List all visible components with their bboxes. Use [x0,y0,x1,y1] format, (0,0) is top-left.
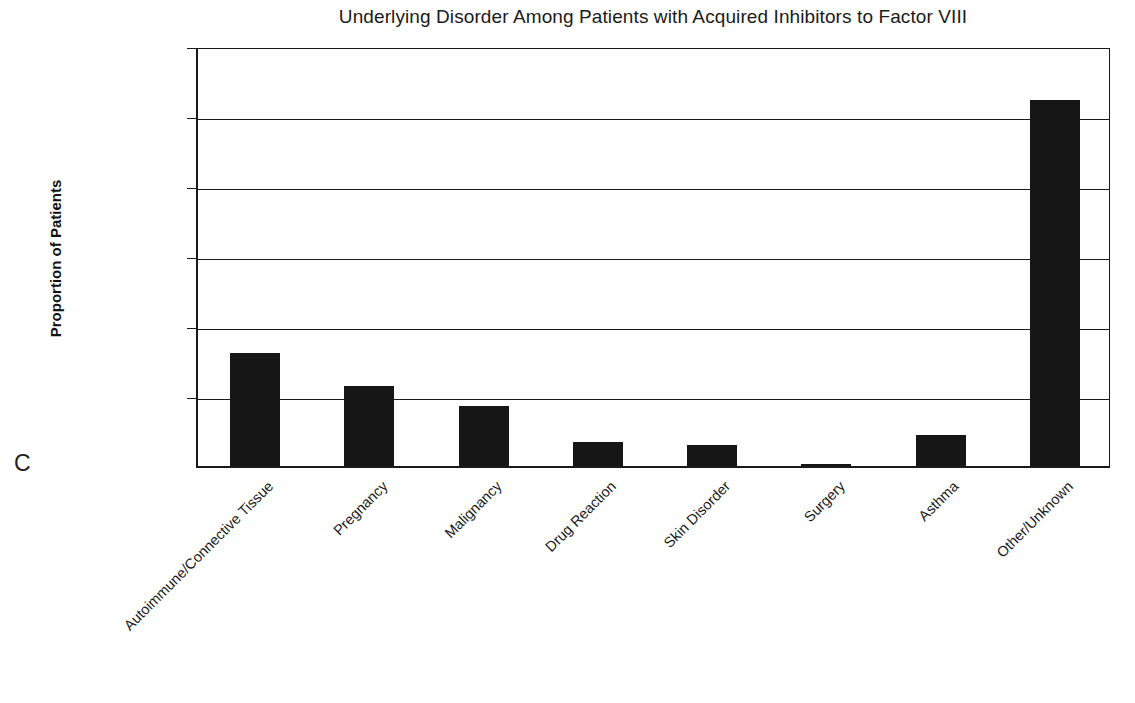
x-tick-label: Drug Reaction [542,478,619,555]
bar [801,464,851,466]
y-tick-mark [187,328,196,329]
y-tick-mark [187,258,196,259]
x-tick-label: Asthma [916,478,962,524]
x-tick-label: Other/Unknown [994,478,1077,561]
bar [573,442,623,466]
x-tick-label: Surgery [800,478,847,525]
bar [916,435,966,466]
x-tick-label: Malignancy [442,478,505,541]
figure-panel-c: Underlying Disorder Among Patients with … [0,0,1135,703]
gridline [198,189,1109,190]
gridline [198,259,1109,260]
y-tick-mark [187,118,196,119]
panel-label: C [14,450,31,477]
bar [459,406,509,466]
gridline [198,119,1109,120]
gridline [198,329,1109,330]
bar [344,386,394,466]
bar [230,353,280,466]
y-tick-mark [187,188,196,189]
x-tick-label: Skin Disorder [661,478,734,551]
y-tick-mark [187,48,196,49]
plot-area [196,48,1110,468]
bar [1030,100,1080,466]
chart-title: Underlying Disorder Among Patients with … [196,6,1110,28]
gridline [198,399,1109,400]
bar [687,445,737,466]
x-tick-label: Pregnancy [330,478,390,538]
y-tick-mark [187,398,196,399]
y-axis-title: Proportion of Patients [47,129,64,389]
x-tick-label: Autoimmune/Connective Tissue [121,478,276,633]
